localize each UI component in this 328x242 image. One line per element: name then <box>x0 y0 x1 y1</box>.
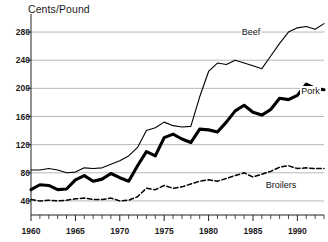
price-line-chart: Cents/Pound 2802402001601208040 19601965… <box>0 0 328 242</box>
plot-area <box>0 0 328 242</box>
series-label-broilers: Broilers <box>265 180 298 190</box>
series-label-pork: Pork <box>300 86 321 96</box>
series-label-beef: Beef <box>241 27 262 37</box>
